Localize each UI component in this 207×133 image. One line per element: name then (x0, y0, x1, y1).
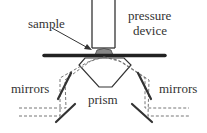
label-device: device (133, 24, 167, 37)
diagram: sample pressure device mirrors mirrors p… (0, 0, 207, 133)
mirror-left-lower (56, 104, 75, 122)
label-sample: sample (28, 17, 65, 30)
mirror-right-lower (132, 104, 152, 122)
pressure-device (92, 0, 115, 48)
label-prism: prism (88, 93, 118, 106)
label-mirrors-left: mirrors (11, 82, 49, 95)
label-mirrors-right: mirrors (159, 82, 197, 95)
sample-arrow (52, 28, 92, 50)
label-pressure: pressure (128, 9, 171, 22)
